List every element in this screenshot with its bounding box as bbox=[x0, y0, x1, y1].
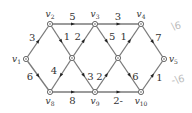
edge-weight: 1 bbox=[156, 72, 162, 83]
edge-weight: 4 bbox=[51, 65, 57, 76]
edge-weight: 5 bbox=[109, 31, 115, 42]
edge-weight: 2 bbox=[96, 71, 102, 82]
edge-weight: 5 bbox=[69, 11, 75, 22]
edge-v1-v2: 3 bbox=[26, 24, 50, 59]
edge-weight: 3 bbox=[87, 71, 93, 82]
edge-v3-v4: 3 bbox=[95, 11, 141, 26]
node-v1: v1 bbox=[12, 54, 29, 65]
vertex-label: v1 bbox=[12, 54, 21, 65]
edge-weight: 6 bbox=[27, 71, 33, 82]
edge-weight: 3 bbox=[29, 32, 35, 43]
handwritten-annotation: \6 bbox=[170, 19, 181, 32]
edge-cL-v8: 4 bbox=[50, 58, 72, 92]
edge-v4-v5: 7 bbox=[141, 24, 164, 59]
vertex-label: v2 bbox=[46, 9, 55, 20]
arrow-icon bbox=[71, 22, 75, 25]
annotations-layer: \6-\6 bbox=[170, 19, 185, 86]
vertex-label: v3 bbox=[91, 9, 100, 20]
edge-weight: 6 bbox=[132, 71, 138, 82]
arrow-icon bbox=[117, 22, 121, 25]
edge-weight: 2 bbox=[75, 31, 81, 42]
graph-diagram: 36537182-12435126 v1v2v3v4v5v8v9v10 \6-\… bbox=[0, 0, 192, 113]
edge-v3-cR: 5 bbox=[95, 24, 118, 58]
vertex-label: v8 bbox=[46, 96, 55, 107]
edge-weight: 1 bbox=[121, 31, 127, 42]
vertex-label: v9 bbox=[91, 96, 100, 107]
arrow-icon bbox=[71, 90, 75, 93]
edge-cR-v4: 1 bbox=[118, 24, 141, 58]
edge-v2-cL: 1 bbox=[50, 24, 72, 58]
edge-weight: 3 bbox=[115, 11, 121, 22]
handwritten-annotation: -\6 bbox=[170, 73, 185, 86]
edge-weight: 1 bbox=[64, 31, 70, 42]
edge-weight: 8 bbox=[69, 95, 75, 106]
node-cL bbox=[69, 55, 74, 60]
vertex-label: v4 bbox=[137, 9, 146, 20]
edge-v1-v8: 6 bbox=[26, 59, 50, 92]
node-v4: v4 bbox=[137, 9, 146, 27]
nodes-layer: v1v2v3v4v5v8v9v10 bbox=[12, 9, 178, 107]
vertex-label: v10 bbox=[135, 96, 148, 107]
edge-v8-v9: 8 bbox=[50, 90, 95, 106]
node-v5: v5 bbox=[161, 54, 178, 65]
edge-weight: 2- bbox=[113, 95, 123, 106]
edge-cR-v10: 6 bbox=[118, 58, 141, 92]
edge-v2-v3: 5 bbox=[50, 11, 95, 26]
edge-weight: 7 bbox=[155, 32, 161, 43]
vertex-label: v5 bbox=[169, 54, 178, 65]
edge-v9-cR: 2 bbox=[95, 58, 118, 92]
arrow-icon bbox=[117, 90, 121, 93]
node-cR bbox=[115, 55, 120, 60]
edge-cL-v3: 2 bbox=[72, 24, 95, 58]
edge-cL-v9: 3 bbox=[72, 58, 95, 92]
edge-v10-v5: 1 bbox=[141, 59, 164, 92]
